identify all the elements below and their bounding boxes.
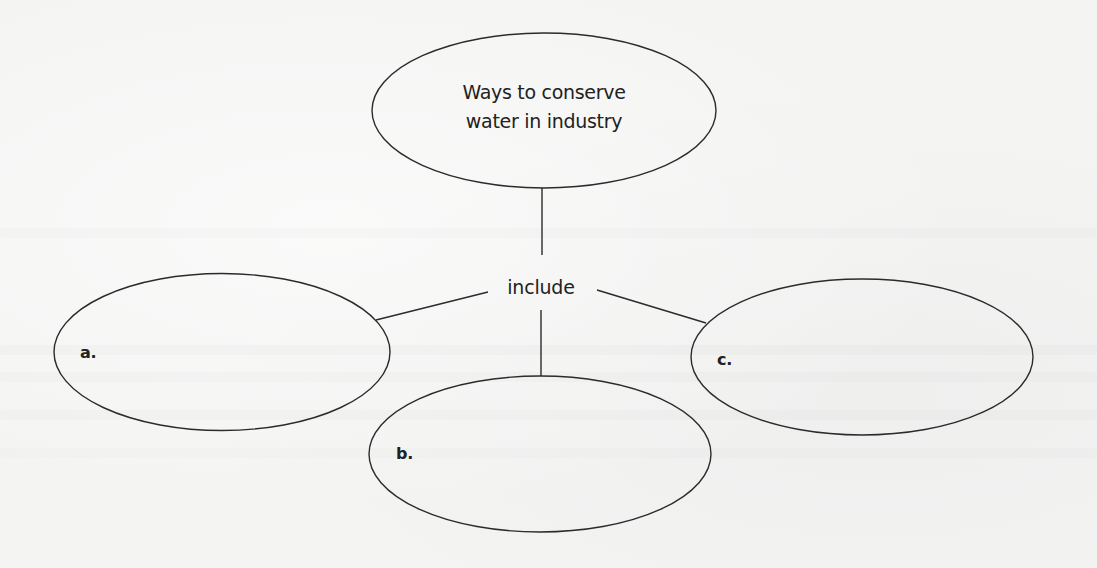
central-node-line-2: water in industry [372, 107, 716, 136]
central-node-line-1: Ways to conserve [372, 78, 716, 107]
node-a-ellipse[interactable] [54, 274, 390, 431]
node-c-label: c. [717, 350, 732, 370]
node-b-label: b. [396, 444, 413, 464]
node-a-label: a. [80, 343, 96, 363]
node-b-ellipse[interactable] [369, 376, 711, 532]
connector-linking-word-to-c [597, 290, 706, 323]
connector-linking-word-to-a [376, 292, 488, 320]
node-c-ellipse[interactable] [691, 279, 1033, 435]
worksheet-page: Ways to conserve water in industry inclu… [0, 0, 1097, 568]
linking-word: include [490, 274, 592, 300]
central-node-text: Ways to conserve water in industry [372, 78, 716, 136]
